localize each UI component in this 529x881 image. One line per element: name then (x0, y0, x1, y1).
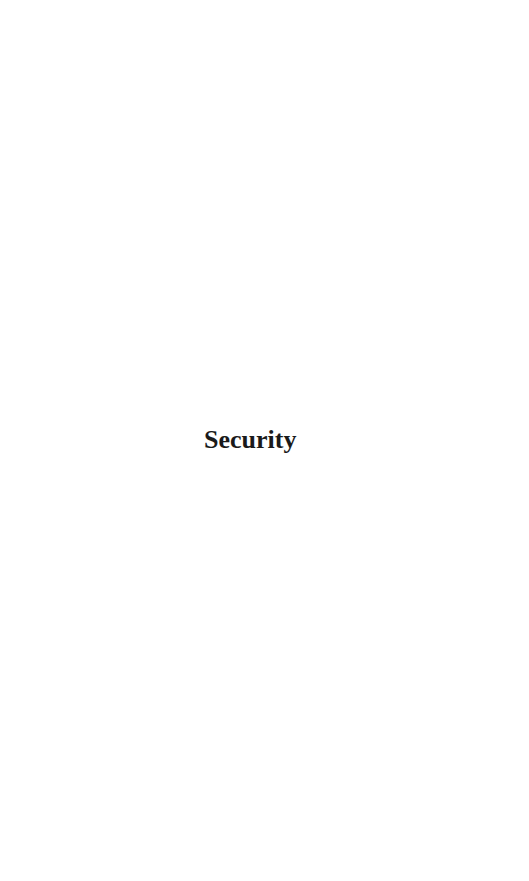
page-title: Security (204, 423, 296, 457)
page: Security (0, 0, 529, 881)
